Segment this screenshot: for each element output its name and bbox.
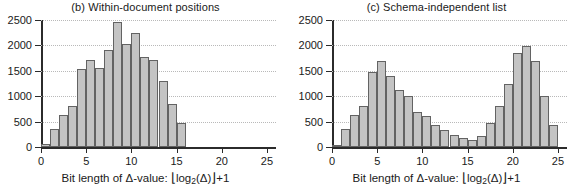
x-tick-label-10-c: 10 xyxy=(416,156,428,167)
gridline-y-2500-c xyxy=(332,20,567,21)
histogram-bar xyxy=(540,96,549,147)
y-tick-1500-b xyxy=(35,71,41,72)
y-axis-line-b xyxy=(41,20,43,147)
x-tick-label-15-b: 15 xyxy=(170,156,182,167)
x-tick-label-20-b: 20 xyxy=(216,156,228,167)
x-tick-25-c xyxy=(558,147,559,153)
histogram-bar xyxy=(168,104,177,147)
x-tick-0-b xyxy=(41,147,42,153)
histogram-bar xyxy=(77,69,86,147)
histogram-bar xyxy=(149,60,158,147)
x-tick-label-25-c: 25 xyxy=(552,156,564,167)
histogram-bar xyxy=(95,68,104,147)
x-tick-15-b xyxy=(177,147,178,153)
x-axis-title-delta-c: Δ-value: xyxy=(416,172,458,184)
x-axis-title-text-c: Bit length of xyxy=(353,172,417,184)
y-tick-2000-b xyxy=(35,45,41,46)
x-tick-label-5-b: 5 xyxy=(83,156,89,167)
chart-title-c: (c) Schema-independent list xyxy=(291,0,582,14)
gridline-y-2000-c xyxy=(332,45,567,46)
histogram-bar xyxy=(413,112,422,147)
histogram-bar xyxy=(359,106,368,147)
chart-panel-c: (c) Schema-independent list 050010001500… xyxy=(291,0,582,193)
histogram-bar xyxy=(431,125,440,147)
x-axis-title-c: Bit length of Δ-value: ⌊log2(Δ)⌋+1 xyxy=(291,171,582,188)
histogram-bar xyxy=(341,129,350,147)
histogram-bar xyxy=(68,106,77,147)
gridline-y-2000-b xyxy=(41,45,276,46)
histogram-bar xyxy=(459,138,468,147)
histogram-bar xyxy=(468,140,477,147)
x-tick-0-c xyxy=(332,147,333,153)
histogram-bar xyxy=(159,81,168,147)
y-tick-2500-c xyxy=(326,20,332,21)
log-arg-b: (Δ) xyxy=(196,172,211,184)
x-tick-label-10-b: 10 xyxy=(125,156,137,167)
x-tick-20-c xyxy=(513,147,514,153)
histogram-bar xyxy=(350,115,359,147)
histogram-bar xyxy=(131,33,140,147)
gridline-y-2500-b xyxy=(41,20,276,21)
x-tick-15-c xyxy=(468,147,469,153)
histogram-bar xyxy=(404,96,413,147)
x-tick-label-5-c: 5 xyxy=(374,156,380,167)
x-tick-10-c xyxy=(422,147,423,153)
chart-title-b: (b) Within-document positions xyxy=(0,0,291,14)
y-tick-500-c xyxy=(326,122,332,123)
histogram-bar xyxy=(513,53,522,147)
log-text-b: log xyxy=(176,172,191,184)
histogram-bar xyxy=(495,106,504,147)
x-axis-title-delta-b: Δ-value: xyxy=(125,172,167,184)
y-tick-label-1500-c: 1500 xyxy=(299,65,323,76)
y-tick-label-2500-c: 2500 xyxy=(299,15,323,26)
y-tick-label-2000-c: 2000 xyxy=(299,40,323,51)
histogram-bar xyxy=(59,115,68,148)
histogram-bar xyxy=(486,123,495,147)
x-tick-label-20-c: 20 xyxy=(507,156,519,167)
y-tick-2500-b xyxy=(35,20,41,21)
y-tick-500-b xyxy=(35,122,41,123)
y-tick-1000-b xyxy=(35,96,41,97)
y-tick-label-2000-b: 2000 xyxy=(8,40,32,51)
x-axis-line-b xyxy=(41,147,276,149)
x-axis-title-b: Bit length of Δ-value: ⌊log2(Δ)⌋+1 xyxy=(0,171,291,188)
histogram-figure: (b) Within-document positions 0500100015… xyxy=(0,0,582,193)
histogram-bar xyxy=(140,57,149,147)
y-tick-label-0-b: 0 xyxy=(26,142,32,153)
histogram-bar xyxy=(386,76,395,147)
plus-one-c: +1 xyxy=(507,172,520,184)
y-tick-label-1000-c: 1000 xyxy=(299,91,323,102)
histogram-bar xyxy=(377,61,386,147)
histogram-bar xyxy=(504,84,513,147)
histogram-bar xyxy=(422,116,431,147)
histogram-bar xyxy=(477,136,486,147)
histogram-bar xyxy=(177,123,186,147)
x-tick-label-0-b: 0 xyxy=(38,156,44,167)
histogram-bar xyxy=(440,130,449,147)
x-tick-10-b xyxy=(131,147,132,153)
x-tick-5-b xyxy=(86,147,87,153)
y-tick-1500-c xyxy=(326,71,332,72)
plot-area-c: 050010001500200025000510152025 xyxy=(332,20,567,147)
plot-area-b: 050010001500200025000510152025 xyxy=(41,20,276,147)
x-tick-25-b xyxy=(267,147,268,153)
x-tick-5-c xyxy=(377,147,378,153)
chart-panel-b: (b) Within-document positions 0500100015… xyxy=(0,0,291,193)
histogram-bar xyxy=(41,144,50,147)
log-arg-c: (Δ) xyxy=(487,172,502,184)
y-tick-label-1000-b: 1000 xyxy=(8,91,32,102)
x-axis-line-c xyxy=(332,147,567,149)
y-tick-2000-c xyxy=(326,45,332,46)
plus-one-b: +1 xyxy=(216,172,229,184)
y-tick-label-2500-b: 2500 xyxy=(8,15,32,26)
histogram-bar xyxy=(522,46,531,147)
histogram-bar xyxy=(122,44,131,147)
histogram-bar xyxy=(395,90,404,147)
histogram-bar xyxy=(531,61,540,147)
histogram-bar xyxy=(113,22,122,147)
y-tick-1000-c xyxy=(326,96,332,97)
y-tick-label-500-b: 500 xyxy=(14,116,32,127)
x-tick-label-0-c: 0 xyxy=(329,156,335,167)
x-tick-label-15-c: 15 xyxy=(461,156,473,167)
histogram-bar xyxy=(86,60,95,147)
